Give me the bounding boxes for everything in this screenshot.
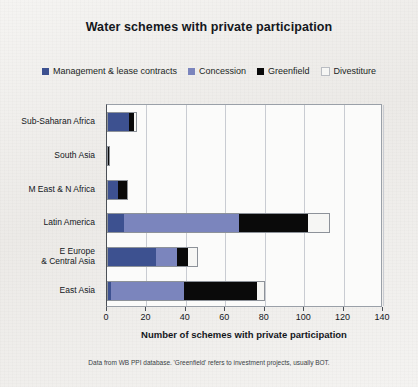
legend-item-2[interactable]: Greenfield <box>257 66 310 76</box>
chart-figure: Water schemes with private participation… <box>0 0 418 387</box>
bar-segment-2[interactable] <box>118 180 127 200</box>
legend-label-1: Concession <box>199 66 246 76</box>
bar-segment-1[interactable] <box>124 213 239 233</box>
x-tick-100 <box>303 307 304 311</box>
x-axis-title: Number of schemes with private participa… <box>106 329 382 340</box>
x-tick-label-140: 140 <box>374 312 389 322</box>
bar-row[interactable] <box>107 213 330 233</box>
x-tick-60 <box>224 307 225 311</box>
x-tick-140 <box>382 307 383 311</box>
bar-segment-3[interactable] <box>127 180 128 200</box>
bar-segment-2[interactable] <box>107 146 110 166</box>
bar-segment-3[interactable] <box>308 213 330 233</box>
x-tick-80 <box>264 307 265 311</box>
plot-area <box>106 104 382 307</box>
y-label-3: Latin America <box>44 217 96 227</box>
x-tick-20 <box>145 307 146 311</box>
x-tick-label-120: 120 <box>335 312 350 322</box>
x-tick-0 <box>106 307 107 311</box>
bar-segment-3[interactable] <box>134 112 137 132</box>
legend-swatch-icon-0 <box>42 68 49 75</box>
bar-segment-2[interactable] <box>177 247 188 267</box>
x-tick-label-20: 20 <box>140 312 150 322</box>
gridline-140 <box>383 105 384 306</box>
legend-label-2: Greenfield <box>268 66 310 76</box>
y-label-4: E Europe & Central Asia <box>41 246 95 266</box>
bar-segment-1[interactable] <box>156 247 177 267</box>
x-tick-label-0: 0 <box>103 312 108 322</box>
bar-segment-3[interactable] <box>257 281 265 301</box>
bar-segment-0[interactable] <box>107 213 124 233</box>
bar-segment-3[interactable] <box>188 247 198 267</box>
x-axis-ticks: 020406080100120140 <box>106 307 382 321</box>
bar-series-container <box>107 105 381 306</box>
legend-swatch-icon-3 <box>321 67 330 76</box>
chart-title: Water schemes with private participation <box>0 20 418 34</box>
y-label-5: East Asia <box>60 285 95 295</box>
chart-footnote: Data from WB PPI database. 'Greenfield' … <box>0 359 418 366</box>
legend-item-0[interactable]: Management & lease contracts <box>42 66 177 76</box>
chart-legend: Management & lease contractsConcessionGr… <box>0 66 418 76</box>
x-tick-label-60: 60 <box>219 312 229 322</box>
bar-row[interactable] <box>107 112 137 132</box>
y-label-2: M East & N Africa <box>28 184 95 194</box>
bar-segment-1[interactable] <box>111 281 184 301</box>
y-axis-category-labels: Sub-Saharan AfricaSouth AsiaM East & N A… <box>0 104 101 307</box>
legend-swatch-icon-2 <box>257 68 264 75</box>
bar-segment-2[interactable] <box>239 213 308 233</box>
bar-segment-0[interactable] <box>107 247 156 267</box>
bar-row[interactable] <box>107 146 110 166</box>
legend-swatch-icon-1 <box>188 68 195 75</box>
bar-row[interactable] <box>107 247 198 267</box>
x-tick-label-100: 100 <box>296 312 311 322</box>
bar-segment-2[interactable] <box>184 281 257 301</box>
legend-label-0: Management & lease contracts <box>53 66 177 76</box>
legend-item-1[interactable]: Concession <box>188 66 246 76</box>
x-tick-label-40: 40 <box>180 312 190 322</box>
x-tick-label-80: 80 <box>259 312 269 322</box>
y-label-1: South Asia <box>54 150 95 160</box>
bar-row[interactable] <box>107 180 128 200</box>
x-tick-40 <box>185 307 186 311</box>
y-label-0: Sub-Saharan Africa <box>21 116 95 126</box>
bar-row[interactable] <box>107 281 265 301</box>
x-tick-120 <box>343 307 344 311</box>
bar-segment-0[interactable] <box>107 112 129 132</box>
legend-label-3: Divestiture <box>334 66 377 76</box>
bar-segment-0[interactable] <box>107 180 118 200</box>
legend-item-3[interactable]: Divestiture <box>321 66 377 76</box>
